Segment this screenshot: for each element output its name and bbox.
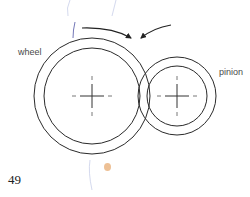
smudge-mark <box>104 163 111 171</box>
wheel-rotation-arrow <box>82 28 131 38</box>
pinion-center-crosshair <box>157 76 197 116</box>
wheel-label: wheel <box>18 48 42 57</box>
wheel-center-crosshair <box>72 76 112 116</box>
page-number: 49 <box>8 173 21 186</box>
pinion-rotation-arrow <box>141 25 171 38</box>
gear-diagram <box>0 0 250 197</box>
wheel-gear <box>34 38 150 154</box>
pinion-label: pinion <box>219 68 243 77</box>
